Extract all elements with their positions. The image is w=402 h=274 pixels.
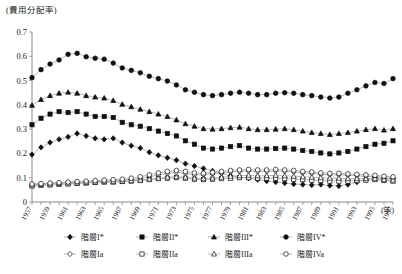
data-point-marker	[346, 91, 351, 96]
y-tick-label: 0.2	[16, 148, 27, 158]
data-point-marker	[373, 80, 378, 85]
data-point-marker	[282, 90, 287, 95]
series-line	[32, 53, 393, 98]
data-point-marker	[57, 110, 61, 114]
data-point-marker	[66, 134, 71, 139]
data-point-marker	[201, 171, 206, 176]
data-point-marker	[256, 147, 260, 151]
data-point-marker	[111, 177, 116, 182]
data-point-marker	[140, 252, 144, 256]
legend-label: 階層III*	[225, 232, 253, 242]
data-point-marker	[372, 126, 377, 131]
data-point-marker	[246, 167, 251, 172]
data-point-marker	[183, 121, 188, 126]
data-point-marker	[192, 171, 197, 176]
data-point-marker	[174, 158, 179, 163]
legend-label: 階層Ia	[81, 249, 104, 259]
x-tick-label-group: 1981	[237, 205, 251, 222]
data-point-marker	[192, 163, 197, 168]
data-point-marker	[391, 139, 395, 143]
data-point-marker	[165, 169, 170, 174]
x-tick-label-group: 1991	[327, 205, 341, 222]
data-point-marker	[84, 112, 88, 116]
data-point-marker	[66, 90, 71, 95]
x-axis-unit-label: (年)	[381, 205, 395, 215]
legend-item-2[interactable]: 階層II*	[136, 232, 178, 242]
data-point-marker	[147, 74, 152, 79]
x-tick-label: 1975	[182, 205, 196, 222]
data-point-marker	[219, 92, 224, 97]
data-point-marker	[284, 252, 289, 257]
data-point-marker	[382, 81, 387, 86]
data-point-marker	[66, 111, 70, 115]
x-tick-label-group: 1967	[110, 205, 124, 222]
data-point-marker	[147, 150, 152, 155]
x-tick-label-group: 1995	[363, 205, 377, 222]
legend-label: 階層IVa	[297, 249, 325, 259]
data-point-marker	[138, 124, 142, 128]
data-point-marker	[165, 155, 170, 160]
data-point-marker	[337, 171, 342, 176]
data-point-marker	[75, 51, 80, 56]
x-tick-label: 1993	[345, 205, 359, 222]
x-tick-label: 1991	[327, 205, 341, 222]
legend-item-8[interactable]: 階層IVa	[280, 249, 325, 259]
legend-item-6[interactable]: 階層IIa	[136, 249, 178, 259]
data-point-marker	[300, 169, 305, 174]
data-point-marker	[309, 93, 314, 98]
data-point-marker	[373, 173, 378, 178]
data-point-marker	[156, 76, 161, 81]
data-point-marker	[391, 76, 396, 81]
data-point-marker	[255, 92, 260, 97]
data-point-marker	[300, 92, 305, 97]
data-point-marker	[129, 68, 134, 73]
legend-item-7[interactable]: 階層IIIa	[208, 249, 253, 259]
data-point-marker	[93, 136, 98, 141]
data-point-marker	[201, 92, 206, 97]
data-point-marker	[156, 129, 160, 133]
data-point-marker	[273, 173, 278, 178]
y-tick-label: 0.6	[16, 51, 27, 61]
data-point-marker	[39, 67, 44, 72]
legend-item-5[interactable]: 階層Ia	[64, 249, 104, 259]
data-point-marker	[165, 79, 170, 84]
data-point-marker	[247, 146, 251, 150]
legend-item-3[interactable]: 階層III*	[208, 232, 253, 242]
data-point-marker	[210, 147, 214, 151]
x-tick-label-group: 1987	[291, 205, 305, 222]
legend-item-4[interactable]: 階層IV*	[280, 232, 325, 242]
x-tick-label-group: 1963	[74, 205, 88, 222]
data-point-marker	[147, 173, 152, 178]
data-point-marker	[156, 171, 161, 176]
data-point-marker	[66, 52, 71, 57]
data-point-marker	[102, 178, 107, 183]
legend-svg: 階層I*階層II*階層III*階層IV*階層Ia階層IIa階層IIIa階層IVa	[0, 228, 402, 274]
data-point-marker	[30, 123, 34, 127]
data-point-marker	[140, 235, 144, 239]
data-point-marker	[228, 145, 232, 149]
data-point-marker	[300, 182, 305, 187]
data-point-marker	[39, 145, 44, 150]
data-point-marker	[328, 171, 333, 176]
data-point-marker	[75, 131, 80, 136]
data-point-marker	[282, 180, 287, 185]
data-point-marker	[319, 95, 324, 100]
data-point-marker	[93, 56, 98, 61]
x-tick-label-group: 1989	[309, 205, 323, 222]
data-point-marker	[291, 168, 296, 173]
data-point-marker	[237, 125, 242, 130]
data-point-marker	[84, 54, 89, 59]
data-point-marker	[265, 147, 269, 151]
data-point-marker	[147, 127, 151, 131]
data-point-marker	[183, 139, 187, 143]
x-tick-label: 1989	[309, 205, 323, 222]
data-point-marker	[192, 142, 196, 146]
data-point-marker	[237, 168, 242, 173]
data-point-marker	[39, 181, 44, 186]
x-tick-label-group: 1983	[255, 205, 269, 222]
x-tick-label: 1977	[200, 205, 214, 222]
chart-container: (費用分配率) 00.10.20.30.40.50.60.71957195919…	[0, 0, 402, 274]
data-point-marker	[292, 147, 296, 151]
data-point-marker	[111, 115, 115, 119]
legend-item-1[interactable]: 階層I*	[64, 232, 104, 242]
